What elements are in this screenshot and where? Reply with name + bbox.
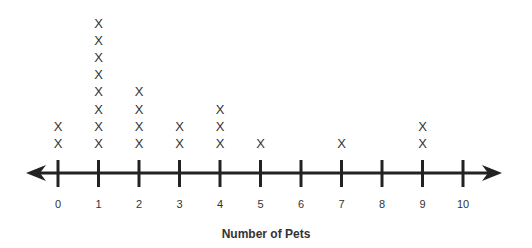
x-mark: X [213, 103, 227, 116]
tick-label: 8 [370, 198, 394, 210]
x-mark: X [173, 120, 187, 133]
x-mark: X [132, 85, 146, 98]
x-mark: X [92, 120, 106, 133]
x-mark: X [213, 137, 227, 150]
tick-label: 1 [87, 198, 111, 210]
x-mark: X [132, 120, 146, 133]
tick-label: 2 [127, 198, 151, 210]
line-plot: XXXXXXXXXXXXXXXXXXXXXXX 012345678910 Num… [0, 0, 532, 248]
x-mark: X [132, 137, 146, 150]
x-mark: X [92, 137, 106, 150]
tick-label: 4 [208, 198, 232, 210]
tick-label: 0 [46, 198, 70, 210]
x-mark: X [51, 137, 65, 150]
tick-label: 10 [451, 198, 475, 210]
tick-label: 9 [411, 198, 435, 210]
x-mark: X [92, 103, 106, 116]
x-mark: X [416, 120, 430, 133]
x-axis-title: Number of Pets [0, 227, 532, 241]
x-mark: X [92, 34, 106, 47]
tick-label: 6 [289, 198, 313, 210]
x-mark: X [132, 103, 146, 116]
x-mark: X [173, 137, 187, 150]
x-mark: X [254, 137, 268, 150]
x-mark: X [51, 120, 65, 133]
tick-label: 7 [330, 198, 354, 210]
x-mark: X [92, 68, 106, 81]
x-mark: X [416, 137, 430, 150]
tick-label: 5 [249, 198, 273, 210]
number-line [0, 0, 532, 248]
tick-label: 3 [168, 198, 192, 210]
x-mark: X [92, 51, 106, 64]
x-mark: X [92, 17, 106, 30]
x-mark: X [213, 120, 227, 133]
x-mark: X [92, 85, 106, 98]
x-mark: X [335, 137, 349, 150]
